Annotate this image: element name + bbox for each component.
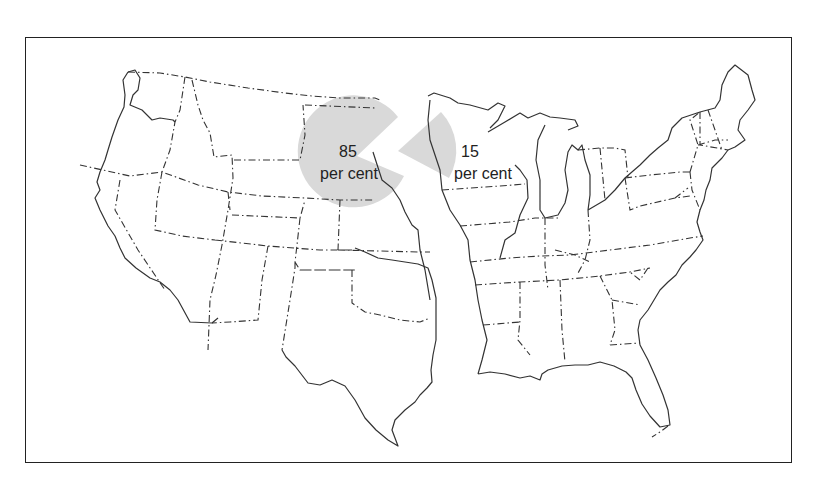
east-coastline (428, 65, 755, 427)
west-northern-border (128, 72, 380, 100)
slice-85-unit: per cent (309, 166, 389, 182)
florida-keys (652, 426, 668, 437)
slice-15-value: 15 (455, 144, 485, 160)
figure: 85 per cent 15 per cent (0, 0, 817, 479)
us-map (0, 0, 817, 479)
slice-15-unit: per cent (443, 166, 523, 182)
slice-85-value: 85 (333, 144, 363, 160)
